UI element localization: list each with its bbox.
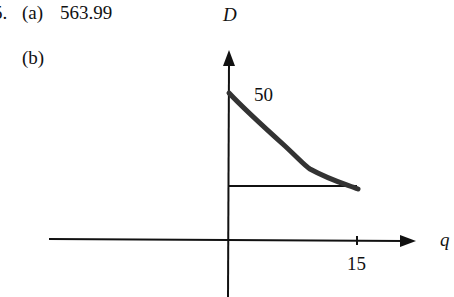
y-value-label: 50 xyxy=(254,84,273,106)
x-axis-label: q xyxy=(440,229,450,251)
y-axis-label: D xyxy=(223,4,237,26)
y-axis xyxy=(228,62,229,297)
x-tick-label: 15 xyxy=(347,253,366,275)
x-axis-arrow-icon xyxy=(400,235,416,247)
demand-curve xyxy=(229,93,358,189)
y-axis-arrow-icon xyxy=(223,50,235,66)
x-axis xyxy=(49,239,405,241)
demand-graph xyxy=(0,0,454,297)
